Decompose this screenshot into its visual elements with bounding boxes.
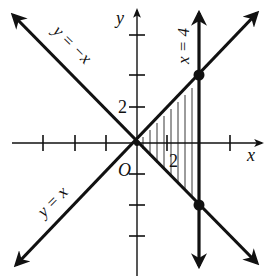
origin-point (134, 140, 140, 146)
coordinate-plane-figure: y x O 2 2 y = −x y = x x = 4 (0, 0, 272, 279)
y-axis-label: y (114, 8, 124, 28)
y-tick-label-2: 2 (118, 97, 127, 117)
label-x-equals-4: x = 4 (174, 27, 193, 65)
graph-svg: y x O 2 2 y = −x y = x x = 4 (0, 0, 272, 279)
x-tick-label-2: 2 (169, 151, 178, 171)
origin-label: O (118, 160, 131, 180)
point-intersection-lower (194, 200, 205, 211)
label-y-equals-neg-x: y = −x (48, 20, 96, 68)
label-y-equals-x: y = x (32, 182, 72, 222)
point-intersection-upper (194, 70, 205, 81)
x-axis-label: x (246, 145, 255, 165)
